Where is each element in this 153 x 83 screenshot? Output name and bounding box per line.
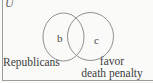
left-circle <box>43 13 84 61</box>
universal-set-label: U <box>5 0 14 11</box>
right-circle-caption-line1: favor <box>76 56 148 68</box>
right-circle <box>68 13 114 61</box>
right-circle-caption: favor death penalty <box>76 56 148 79</box>
right-region-label: c <box>94 34 99 46</box>
left-circle-caption: Republicans <box>3 56 60 68</box>
left-region-label: b <box>57 32 63 44</box>
right-circle-caption-line2: death penalty <box>76 68 148 80</box>
venn-diagram: U b c Republicans favor death penalty <box>0 0 153 83</box>
